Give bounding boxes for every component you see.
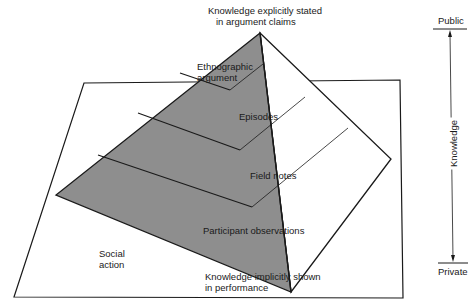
bottom-label: Knowledge implicitly shown in performanc… [205,271,321,293]
level-label-episodes: Episodes [239,111,278,122]
top-label-line-2: in argument claims [205,16,325,27]
arrow-down-icon [451,255,455,262]
bottom-label-line-2: in performance [205,282,321,293]
plane-label-line: Social [99,248,125,259]
level-label-field-notes: Field notes [250,170,296,181]
arrow-up-icon [448,30,452,37]
bottom-label-line-1: Knowledge implicitly shown [205,271,321,282]
level-label-line: Field notes [250,170,296,181]
level-label-line: Participant observations [203,225,304,236]
scale-private-label: Private [438,266,468,277]
scale-public-label: Public [438,15,464,26]
level-label-participant-observations: Participant observations [203,225,304,236]
plane-label-line: action [99,259,125,270]
top-label: Knowledge explicitly stated in argument … [205,5,325,27]
pyramid-diagram [0,0,475,306]
level-label-line: Episodes [239,111,278,122]
level-label-line: argument [197,72,253,83]
top-label-line-1: Knowledge explicitly stated [205,5,325,16]
level-label-ethnographic-argument: Ethnographic argument [197,61,253,83]
scale-axis-label: Knowledge [448,118,459,170]
social-action-label: Social action [99,248,125,270]
level-label-line: Ethnographic [197,61,253,72]
